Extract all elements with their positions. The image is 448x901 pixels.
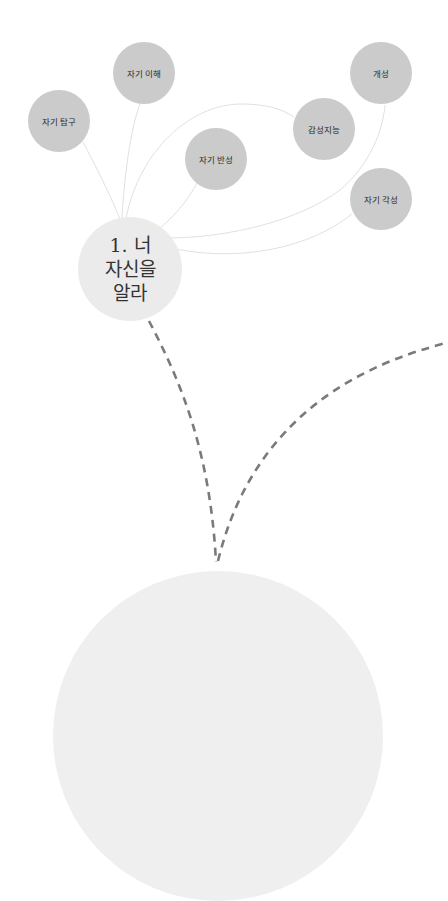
node-label: 자기 반성 [199, 153, 233, 165]
node-self-reflection: 자기 반성 [185, 128, 247, 190]
node-label: 감성지능 [308, 123, 339, 135]
node-emotional-intelligence: 감성지능 [293, 98, 355, 160]
connector-self-exploration [83, 142, 120, 219]
central-node-label: 1. 너 자신을 알라 [105, 233, 156, 305]
node-self-exploration: 자기 탐구 [28, 90, 90, 152]
node-individuality: 개성 [350, 42, 412, 104]
node-label: 개성 [373, 67, 389, 79]
central-node-know-thyself: 1. 너 자신을 알라 [78, 217, 182, 321]
connector-self-awakening [176, 214, 352, 254]
connector-self-reflection [160, 183, 197, 228]
dashed-connector-right [218, 343, 446, 561]
node-self-understanding: 자기 이해 [113, 42, 175, 104]
node-self-awakening: 자기 각성 [350, 168, 412, 230]
bottom-node [53, 571, 383, 901]
node-label: 자기 탐구 [42, 115, 76, 127]
dashed-connector-left [149, 321, 216, 562]
node-label: 자기 이해 [127, 67, 161, 79]
node-label: 자기 각성 [364, 193, 398, 205]
connector-self-understanding [122, 104, 140, 218]
